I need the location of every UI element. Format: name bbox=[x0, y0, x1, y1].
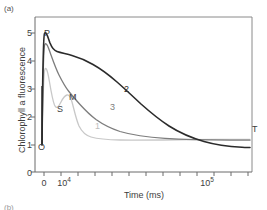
x-tick-1e5-mantissa: 10 bbox=[200, 178, 210, 188]
x-tick-1e4: 104 bbox=[57, 178, 71, 188]
x-tick-1e5-exponent: 5 bbox=[210, 176, 214, 183]
x-tick-1e4-mantissa: 10 bbox=[57, 178, 67, 188]
x-tick-1e4-exponent: 4 bbox=[67, 176, 71, 183]
annotation-P: P bbox=[44, 29, 50, 38]
curve-label-2: 2 bbox=[124, 85, 129, 94]
x-tick-0: 0 bbox=[41, 178, 46, 188]
x-tick-0-mantissa: 0 bbox=[41, 178, 46, 188]
curve-label-3: 3 bbox=[110, 103, 115, 112]
annotation-O: O bbox=[38, 143, 45, 152]
annotation-S: S bbox=[57, 105, 63, 114]
curve-label-1: 1 bbox=[95, 122, 100, 131]
x-tick-1e5: 105 bbox=[200, 178, 214, 188]
figure-panel-a: (a) (b) Chlorophyll a fluorescence Time … bbox=[0, 0, 267, 210]
annotation-M: M bbox=[69, 93, 77, 102]
annotation-T: T bbox=[252, 125, 258, 134]
x-axis-tick-labels: 0 104 105 bbox=[0, 0, 267, 210]
